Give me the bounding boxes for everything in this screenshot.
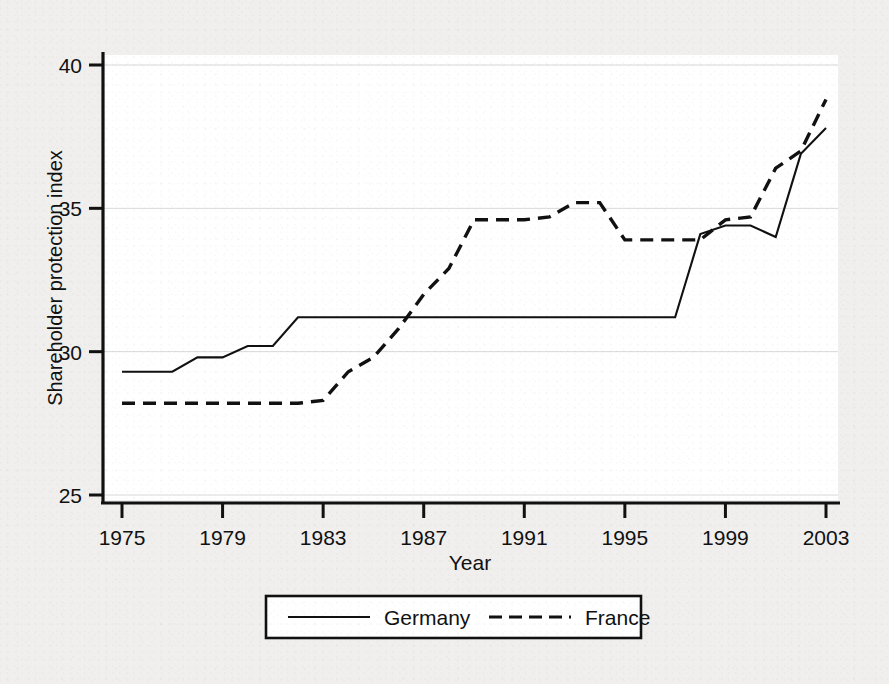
x-tick-label-1987: 1987: [400, 526, 447, 549]
x-tick-label-2003: 2003: [803, 526, 850, 549]
legend: Germany France: [266, 596, 650, 638]
x-tick-label-1975: 1975: [99, 526, 146, 549]
y-axis-title: Shareholder protection index: [44, 150, 66, 406]
x-axis-ticks: 19751979198319871991199519992003: [99, 503, 850, 549]
legend-label-germany: Germany: [384, 606, 471, 629]
x-tick-label-1983: 1983: [300, 526, 347, 549]
y-tick-label-25: 25: [59, 484, 82, 507]
line-chart: 25303540 1975197919831987199119951999200…: [0, 0, 889, 684]
x-axis-title: Year: [449, 551, 491, 574]
x-tick-label-1999: 1999: [702, 526, 749, 549]
x-tick-label-1979: 1979: [199, 526, 246, 549]
y-tick-label-40: 40: [59, 54, 82, 77]
x-tick-label-1991: 1991: [501, 526, 548, 549]
figure-root: 25303540 1975197919831987199119951999200…: [0, 0, 889, 684]
x-tick-label-1995: 1995: [601, 526, 648, 549]
plot-area-background: [103, 55, 838, 500]
legend-label-france: France: [585, 606, 650, 629]
